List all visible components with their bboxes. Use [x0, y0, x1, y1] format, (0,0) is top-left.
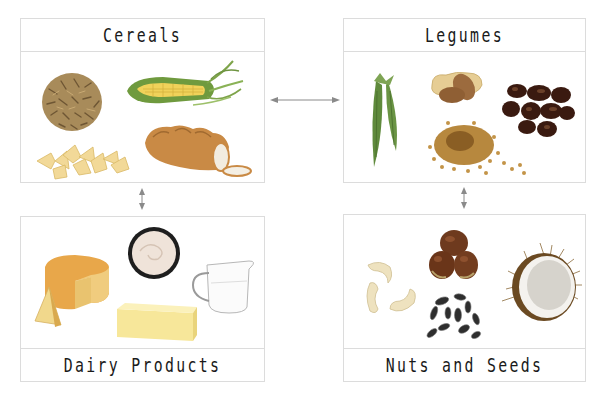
cheese-image [31, 253, 115, 329]
coconut-image [500, 241, 584, 329]
chestnuts-image [428, 227, 480, 283]
dairy-label: Dairy Products [48, 349, 238, 381]
node-cereals: Cereals [20, 18, 265, 183]
sunflower-seeds-image [424, 291, 484, 341]
arrow-cereals-dairy [137, 188, 147, 210]
legumes-label: Legumes [371, 19, 559, 51]
bowtie-pasta-image [33, 139, 133, 181]
node-legumes: Legumes [343, 18, 586, 183]
cream-bowl-image [126, 225, 182, 281]
corn-image [123, 59, 249, 115]
node-dairy: Dairy Products [20, 216, 265, 382]
node-nuts-and-seeds: Nuts and Seeds [343, 214, 586, 382]
peanuts-image [428, 67, 486, 107]
rice-image [39, 69, 105, 135]
milk-jug-image [189, 257, 259, 315]
lentils-image [424, 117, 532, 177]
butter-image [113, 299, 197, 343]
cashews-image [362, 259, 420, 319]
arrow-cereals-legumes [270, 95, 340, 105]
arrow-legumes-nuts [459, 187, 469, 209]
pea-pods-image [360, 71, 410, 171]
bread-image [141, 121, 253, 179]
nuts-and-seeds-label: Nuts and Seeds [371, 349, 559, 381]
cereals-label: Cereals [48, 19, 238, 51]
